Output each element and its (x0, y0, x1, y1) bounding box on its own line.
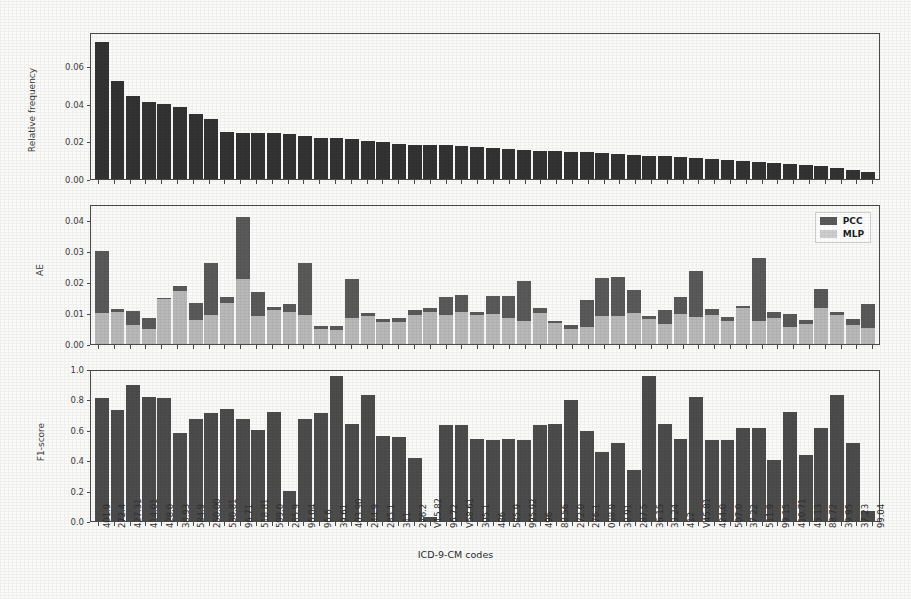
legend-label-pcc: PCC (843, 216, 863, 226)
y-tick-label: 0.0 (70, 517, 84, 527)
bar-ae-mlp (423, 312, 437, 344)
x-tick-mark (288, 522, 289, 526)
y-tick-label: 1.0 (70, 365, 84, 375)
bar-group-absolute-error (251, 206, 265, 344)
x-tick-label: 96.71 (244, 504, 254, 528)
bar-ae-mlp (564, 329, 578, 344)
x-tick-mark (667, 522, 668, 526)
bar-relative-frequency (674, 157, 688, 179)
x-tick-mark (714, 522, 715, 526)
bar-relative-frequency (470, 147, 484, 179)
x-tick-label: 511.9 (765, 504, 775, 528)
bar-ae-mlp (689, 317, 703, 344)
x-tick-label: 599.0 (275, 504, 285, 528)
x-tick-label: 244.9 (370, 504, 380, 528)
bar-ae-mlp (642, 319, 656, 344)
bar-relative-frequency (423, 145, 437, 179)
x-tick-mark (335, 522, 336, 526)
bar-group-absolute-error (642, 206, 656, 344)
bar-relative-frequency (408, 145, 422, 179)
bar-group-absolute-error (533, 206, 547, 344)
bar-relative-frequency (142, 102, 156, 179)
x-tick-mark (145, 522, 146, 526)
bar-relative-frequency (486, 148, 500, 179)
x-tick-mark (98, 522, 99, 526)
x-tick-mark (382, 345, 383, 349)
bar-group-absolute-error (189, 206, 203, 344)
x-tick-label: 311 (402, 512, 412, 528)
x-tick-label: 96.04 (307, 504, 317, 528)
x-tick-mark (319, 522, 320, 526)
bar-relative-frequency (627, 155, 641, 179)
x-tick-mark (872, 180, 873, 184)
x-tick-mark (698, 180, 699, 184)
bar-group-absolute-error (517, 206, 531, 344)
plot-frame-bottom (90, 370, 880, 522)
x-tick-label: 038.9 (607, 504, 617, 528)
x-tick-mark (224, 522, 225, 526)
x-tick-label: 99.04 (876, 504, 886, 528)
bar-ae-mlp (408, 315, 422, 344)
x-tick-mark (288, 180, 289, 184)
x-tick-mark (240, 522, 241, 526)
bar-ae-mlp (580, 327, 594, 344)
bar-group-absolute-error (314, 206, 328, 344)
x-tick-mark (398, 345, 399, 349)
bar-relative-frequency (283, 134, 297, 179)
bar-ae-mlp (236, 279, 250, 344)
bar-group-absolute-error (267, 206, 281, 344)
bar-ae-mlp (595, 316, 609, 344)
x-tick-mark (777, 345, 778, 349)
bar-group-absolute-error (564, 206, 578, 344)
bar-ae-mlp (189, 320, 203, 344)
x-tick-label: 96.72 (449, 504, 459, 528)
x-tick-label: 39.61 (339, 504, 349, 528)
x-tick-mark (841, 180, 842, 184)
x-tick-label: 401.9 (102, 504, 112, 528)
bar-group-absolute-error (95, 206, 109, 344)
bar-relative-frequency (548, 151, 562, 179)
x-tick-mark (335, 180, 336, 184)
x-tick-label: V58.61 (465, 498, 475, 528)
x-tick-mark (430, 180, 431, 184)
x-tick-label: 305.1 (481, 504, 491, 528)
bar-relative-frequency (502, 149, 516, 179)
y-axis-label-f1-score: F1-score (36, 407, 46, 477)
bar-group-absolute-error (204, 206, 218, 344)
x-tick-label: 38.93 (181, 504, 191, 528)
x-tick-label: 412 (686, 512, 696, 528)
bar-relative-frequency (517, 150, 531, 179)
bar-relative-frequency (783, 164, 797, 179)
x-tick-mark (161, 522, 162, 526)
x-tick-mark (177, 522, 178, 526)
y-tick-label: 0.04 (65, 216, 84, 226)
x-tick-mark (762, 345, 763, 349)
bar-relative-frequency (455, 146, 469, 179)
bar-relative-frequency (611, 154, 625, 179)
x-tick-mark (351, 522, 352, 526)
bar-relative-frequency (298, 136, 312, 179)
x-tick-mark (335, 345, 336, 349)
bar-ae-mlp (345, 318, 359, 344)
x-tick-mark (556, 522, 557, 526)
x-tick-mark (651, 180, 652, 184)
x-tick-mark (161, 345, 162, 349)
x-tick-mark (493, 522, 494, 526)
figure-canvas: Relative frequency 0.000.020.040.06 AE 0… (0, 0, 911, 599)
bar-group-absolute-error (752, 206, 766, 344)
bar-group-absolute-error (580, 206, 594, 344)
bar-relative-frequency (189, 114, 203, 179)
bar-ae-mlp (783, 327, 797, 344)
panel-relative-frequency: Relative frequency 0.000.020.040.06 (0, 0, 911, 190)
x-tick-mark (651, 345, 652, 349)
x-tick-mark (556, 180, 557, 184)
x-tick-mark (730, 180, 731, 184)
bar-ae-mlp (548, 323, 562, 344)
x-tick-mark (556, 345, 557, 349)
bar-f1-score (689, 397, 703, 522)
x-tick-mark (762, 522, 763, 526)
bar-ae-mlp (298, 315, 312, 344)
bar-f1-score (830, 395, 844, 521)
x-tick-mark (224, 345, 225, 349)
bar-relative-frequency (736, 161, 750, 179)
